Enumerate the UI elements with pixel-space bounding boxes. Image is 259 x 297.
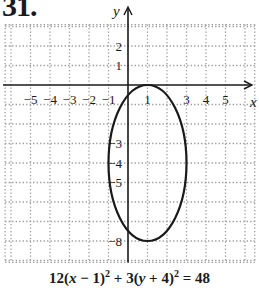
y-tick-label: 2 — [116, 39, 123, 54]
x-tick-label: 4 — [203, 92, 210, 107]
ellipse-graph: xy−5−4−3−2−1134521−3−4−5−8 — [0, 0, 259, 268]
equation-var-x: x — [69, 270, 77, 286]
axes — [3, 7, 252, 262]
equation-part: = 48 — [179, 270, 210, 286]
x-tick-label: 5 — [222, 92, 229, 107]
equation-part: + 3( — [110, 270, 139, 286]
x-axis-label: x — [249, 94, 257, 110]
x-tick-label: −1 — [102, 92, 116, 107]
grid-lines — [5, 25, 255, 263]
equation-part: − 1) — [77, 270, 106, 286]
tick-labels: xy−5−4−3−2−1134521−3−4−5−8 — [24, 3, 257, 249]
x-tick-label: 1 — [144, 92, 151, 107]
x-tick-label: −2 — [82, 92, 96, 107]
y-axis-label: y — [111, 3, 120, 19]
x-tick-label: −5 — [24, 92, 38, 107]
equation-caption: 12(x − 1)2 + 3(y + 4)2 = 48 — [0, 268, 259, 288]
x-tick-label: −4 — [43, 92, 57, 107]
equation-part: + 4) — [145, 270, 174, 286]
x-tick-label: −3 — [63, 92, 77, 107]
equation-part: 12( — [49, 270, 69, 286]
x-tick-label: 3 — [183, 92, 190, 107]
y-tick-label: −8 — [108, 234, 122, 249]
y-tick-label: −4 — [108, 156, 122, 171]
y-tick-label: 1 — [116, 58, 123, 73]
